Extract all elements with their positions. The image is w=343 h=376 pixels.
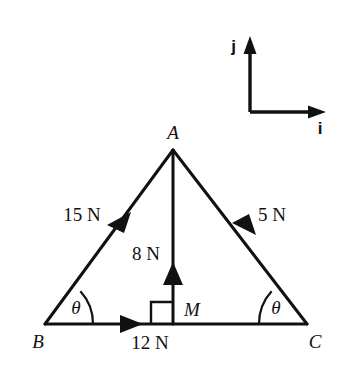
vertex-label-m: M xyxy=(183,299,201,320)
force-arrow-8n xyxy=(163,262,183,285)
edge-ac xyxy=(173,150,307,324)
angle-label-b: θ xyxy=(71,297,80,318)
diagram-canvas: j i xyxy=(0,0,343,376)
force-label-15n: 15 N xyxy=(63,204,101,225)
force-arrow-15n xyxy=(107,212,131,233)
force-diagram-figure: j i xyxy=(0,0,343,376)
axis-key: j i xyxy=(230,36,326,138)
angle-label-c: θ xyxy=(271,297,280,318)
angle-arc-b xyxy=(80,291,93,324)
angle-arc-c xyxy=(259,291,272,324)
force-arrowhead-8n xyxy=(163,262,183,285)
force-arrow-12n xyxy=(120,315,143,333)
axis-horizontal-arrowhead xyxy=(308,106,326,119)
force-label-8n: 8 N xyxy=(132,243,160,264)
force-arrowhead-12n xyxy=(120,315,143,333)
vertex-label-c: C xyxy=(309,331,322,352)
vertex-label-b: B xyxy=(32,331,44,352)
edge-ab xyxy=(45,150,173,324)
axis-label-i: i xyxy=(318,119,323,138)
axis-label-j: j xyxy=(230,37,236,56)
axis-vertical-arrowhead xyxy=(244,36,257,54)
vertex-label-a: A xyxy=(165,122,179,143)
force-label-5n: 5 N xyxy=(258,204,286,225)
right-angle-mark-m xyxy=(151,302,173,324)
force-arrowhead-15n xyxy=(107,212,131,233)
force-label-12n: 12 N xyxy=(131,332,169,353)
